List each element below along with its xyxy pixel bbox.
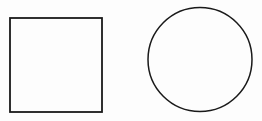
square-shape <box>10 18 102 112</box>
diagram-canvas <box>0 0 262 121</box>
circle-shape <box>148 8 252 112</box>
